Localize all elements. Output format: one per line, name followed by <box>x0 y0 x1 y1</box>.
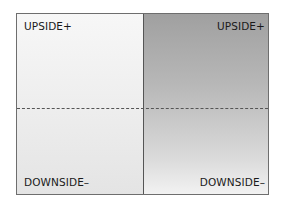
bottom-left-label: DOWNSIDE– <box>24 176 89 188</box>
top-right-label: UPSIDE+ <box>217 20 265 32</box>
top-left-label: UPSIDE+ <box>24 20 72 32</box>
bottom-right-label: DOWNSIDE– <box>200 176 265 188</box>
left-panel <box>17 14 143 194</box>
dashed-midline <box>17 108 268 109</box>
right-panel <box>143 14 268 194</box>
quadrant-frame: UPSIDE+ UPSIDE+ DOWNSIDE– DOWNSIDE– <box>16 13 269 195</box>
